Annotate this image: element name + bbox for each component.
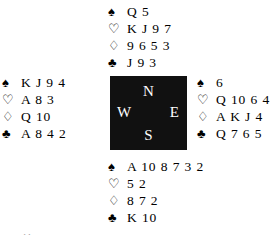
heart-icon: ♡ (2, 91, 15, 108)
hand-east-spades-row: ♠ 6 (197, 74, 270, 91)
club-icon: ♣ (108, 209, 121, 226)
hand-south-hearts: 5 2 (121, 175, 147, 192)
hand-east-diamonds: A K J 4 (210, 108, 263, 125)
club-icon: ♣ (108, 54, 121, 71)
hand-east-hearts-row: ♡ Q 10 6 4 (197, 91, 270, 108)
hand-south-hearts-row: ♡ 5 2 (108, 175, 204, 192)
hand-north-spades-row: ♠ Q 5 (108, 3, 172, 20)
hand-east-clubs: Q 7 6 5 (210, 125, 262, 142)
compass-north-label: N (110, 84, 187, 99)
diamond-icon: ♢ (108, 192, 121, 209)
compass-south-label: S (110, 128, 187, 143)
diamond-icon: ♢ (197, 108, 210, 125)
compass-box: N W E S (110, 76, 187, 150)
compass-east-label: E (170, 105, 179, 120)
compass-west-label: W (117, 105, 131, 120)
hand-north-clubs: J 9 3 (121, 54, 157, 71)
heart-icon: ♡ (108, 20, 121, 37)
hand-west-diamonds-row: ♢ Q 10 (2, 108, 67, 125)
spade-icon: ♠ (108, 158, 121, 175)
spade-icon: ♠ (2, 74, 15, 91)
spade-icon: ♠ (197, 74, 210, 91)
hand-east: ♠ 6 ♡ Q 10 6 4 ♢ A K J 4 ♣ Q 7 6 5 (197, 74, 270, 142)
hand-west-hearts-row: ♡ A 8 3 (2, 91, 67, 108)
hand-south-diamonds-row: ♢ 8 7 2 (108, 192, 204, 209)
hand-west-hearts: A 8 3 (15, 91, 55, 108)
hand-north-hearts: K J 9 7 (121, 20, 172, 37)
hand-south: ♠ A 10 8 7 3 2 ♡ 5 2 ♢ 8 7 2 ♣ K 10 (108, 158, 204, 226)
hand-south-spades-row: ♠ A 10 8 7 3 2 (108, 158, 204, 175)
hand-south-spades: A 10 8 7 3 2 (121, 158, 204, 175)
heart-icon: ♡ (108, 175, 121, 192)
diamond-icon: ♢ (108, 37, 121, 54)
club-icon: ♣ (197, 125, 210, 142)
hand-south-clubs-row: ♣ K 10 (108, 209, 204, 226)
hand-west-diamonds: Q 10 (15, 108, 51, 125)
hand-west-clubs: A 8 4 2 (15, 125, 67, 142)
hand-west-spades: K J 9 4 (15, 74, 66, 91)
hand-east-spades: 6 (210, 74, 224, 91)
hand-north-spades: Q 5 (121, 3, 150, 20)
hand-north-clubs-row: ♣ J 9 3 (108, 54, 172, 71)
hand-west: ♠ K J 9 4 ♡ A 8 3 ♢ Q 10 ♣ A 8 4 2 (2, 74, 67, 142)
hand-west-clubs-row: ♣ A 8 4 2 (2, 125, 67, 142)
hand-north-diamonds-row: ♢ 9 6 5 3 (108, 37, 172, 54)
hand-east-diamonds-row: ♢ A K J 4 (197, 108, 270, 125)
hand-east-hearts: Q 10 6 4 (210, 91, 270, 108)
hand-east-clubs-row: ♣ Q 7 6 5 (197, 125, 270, 142)
heart-icon: ♡ (197, 91, 210, 108)
clipped-caption: one table: (2, 232, 37, 235)
bridge-deal-diagram: ♠ Q 5 ♡ K J 9 7 ♢ 9 6 5 3 ♣ J 9 3 ♠ K J … (0, 0, 277, 235)
hand-south-diamonds: 8 7 2 (121, 192, 159, 209)
hand-north-hearts-row: ♡ K J 9 7 (108, 20, 172, 37)
hand-south-clubs: K 10 (121, 209, 157, 226)
hand-north: ♠ Q 5 ♡ K J 9 7 ♢ 9 6 5 3 ♣ J 9 3 (108, 3, 172, 71)
club-icon: ♣ (2, 125, 15, 142)
spade-icon: ♠ (108, 3, 121, 20)
hand-north-diamonds: 9 6 5 3 (121, 37, 170, 54)
hand-west-spades-row: ♠ K J 9 4 (2, 74, 67, 91)
diamond-icon: ♢ (2, 108, 15, 125)
